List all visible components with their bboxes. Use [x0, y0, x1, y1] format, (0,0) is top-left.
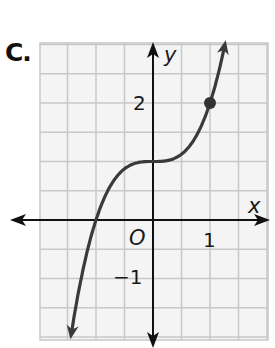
origin-label: O — [129, 226, 146, 250]
y-axis-label: y — [163, 43, 177, 67]
x-tick-label-1: 1 — [203, 228, 216, 252]
graph: y x O 1 2 −1 — [0, 0, 275, 348]
point-1-2 — [204, 97, 216, 109]
y-tick-label-neg1: −1 — [113, 265, 142, 289]
y-tick-label-2: 2 — [133, 91, 146, 115]
x-axis-label: x — [247, 194, 261, 218]
